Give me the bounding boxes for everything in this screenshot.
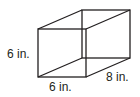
edge-bottom-left [38, 58, 82, 77]
depth-label: 8 in. [106, 71, 129, 83]
edge-top-right [86, 10, 130, 29]
front-face [38, 29, 86, 77]
edge-top-left [38, 10, 82, 29]
height-label: 6 in. [7, 48, 30, 60]
back-face [82, 10, 130, 58]
width-label: 6 in. [49, 81, 72, 93]
